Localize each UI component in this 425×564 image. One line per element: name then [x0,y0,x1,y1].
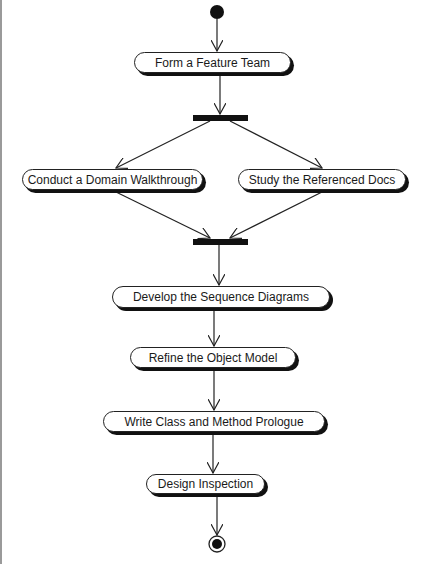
activity-sequence-diagrams[interactable]: Develop the Sequence Diagrams [112,286,330,308]
edge-docs-to-join [230,192,322,238]
edge-fork-to-walkthrough [116,121,210,168]
activity-label: Write Class and Method Prologue [124,415,303,429]
activity-object-model[interactable]: Refine the Object Model [130,347,296,368]
activity-label: Develop the Sequence Diagrams [133,290,309,304]
edge-walkthrough-to-join [116,192,210,238]
fork-bar [193,115,248,121]
activity-label: Conduct a Domain Walkthrough [28,173,198,187]
edge-fork-to-docs [230,121,322,168]
activity-label: Design Inspection [158,477,253,491]
join-bar [193,239,248,245]
activity-label: Form a Feature Team [155,56,270,70]
initial-node-icon [210,5,224,19]
activity-class-prologue[interactable]: Write Class and Method Prologue [103,411,325,432]
activity-study-docs[interactable]: Study the Referenced Docs [238,169,406,190]
activity-domain-walkthrough[interactable]: Conduct a Domain Walkthrough [22,169,203,190]
activity-form-team[interactable]: Form a Feature Team [134,52,291,73]
activity-label: Study the Referenced Docs [249,173,396,187]
activity-label: Refine the Object Model [149,351,278,365]
activity-design-inspection[interactable]: Design Inspection [146,474,265,494]
